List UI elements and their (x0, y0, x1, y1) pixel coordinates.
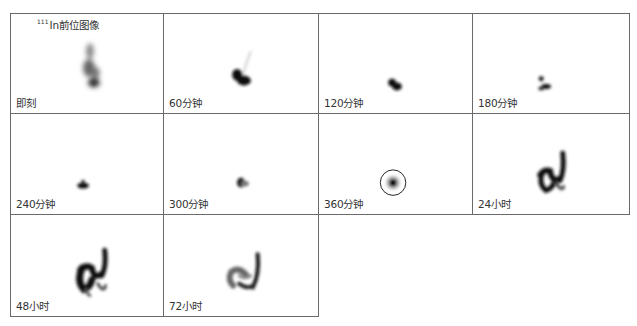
time-label: 72小时 (169, 298, 202, 313)
panel-24h: 24小时 (472, 113, 630, 215)
panel-300min: 300分钟 (163, 113, 319, 215)
panel-180min: 180分钟 (472, 13, 630, 114)
panel-60min: 60分钟 (163, 13, 319, 114)
panel-48h: 48小时 (10, 214, 164, 317)
time-label: 60分钟 (169, 95, 202, 110)
panel-title: 111In前位图像 (37, 17, 99, 32)
panel-72h: 72小时 (163, 214, 319, 317)
time-label: 240分钟 (16, 196, 55, 211)
panel-360min: 360分钟 (318, 113, 473, 215)
scintigraphy-figure: 111In前位图像 即刻 60分钟 120分钟 (0, 0, 637, 326)
time-label: 24小时 (478, 196, 511, 211)
time-label: 300分钟 (169, 196, 208, 211)
panel-120min: 120分钟 (318, 13, 473, 114)
time-label: 48小时 (16, 298, 49, 313)
time-label: 120分钟 (324, 95, 363, 110)
time-label: 即刻 (16, 95, 36, 110)
panel-immediate: 111In前位图像 即刻 (10, 13, 164, 114)
time-label: 180分钟 (478, 95, 517, 110)
time-label: 360分钟 (324, 196, 363, 211)
panel-240min: 240分钟 (10, 113, 164, 215)
